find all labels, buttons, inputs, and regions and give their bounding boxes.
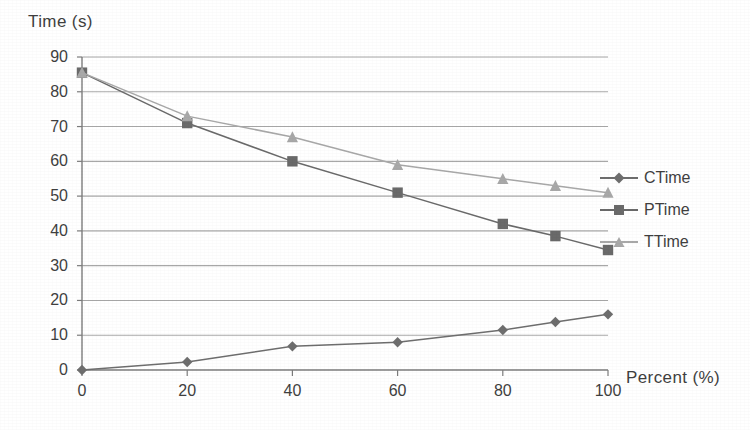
data-point-diamond xyxy=(392,337,402,347)
y-tick-label: 60 xyxy=(34,152,68,170)
x-tick-label: 60 xyxy=(389,382,407,400)
y-axis-title: Time (s) xyxy=(28,12,93,32)
x-tick-label: 40 xyxy=(283,382,301,400)
legend-label-ttime: TTime xyxy=(638,233,689,251)
y-tick-label: 40 xyxy=(34,222,68,240)
y-tick-label: 10 xyxy=(34,326,68,344)
data-point-diamond xyxy=(287,341,297,351)
data-point-diamond xyxy=(77,365,87,375)
x-tick-label: 80 xyxy=(494,382,512,400)
x-axis-title: Percent (%) xyxy=(626,368,720,388)
data-point-diamond xyxy=(182,357,192,367)
data-point-square xyxy=(550,231,560,241)
data-point-diamond xyxy=(498,325,508,335)
legend-label-ctime: CTime xyxy=(638,169,691,187)
y-tick-label: 90 xyxy=(34,48,68,66)
x-tick-label: 0 xyxy=(78,382,87,400)
y-tick-label: 50 xyxy=(34,187,68,205)
data-point-square xyxy=(392,187,402,197)
data-point-square xyxy=(498,219,508,229)
data-point-triangle xyxy=(182,110,193,121)
y-tick-label: 70 xyxy=(34,118,68,136)
y-tick-label: 20 xyxy=(34,291,68,309)
legend-item-ptime: PTime xyxy=(600,194,740,226)
legend-marker-triangle-icon xyxy=(600,235,638,249)
line-chart: Time (s) Percent (%) 0102030405060708090… xyxy=(0,0,750,430)
series-line-ttime xyxy=(82,73,608,193)
data-point-diamond xyxy=(603,309,613,319)
chart-legend: CTime PTime TTime xyxy=(600,162,740,258)
y-tick-label: 80 xyxy=(34,83,68,101)
data-point-square xyxy=(287,156,297,166)
x-tick-label: 20 xyxy=(178,382,196,400)
legend-item-ctime: CTime xyxy=(600,162,740,194)
y-tick-label: 0 xyxy=(34,361,68,379)
data-point-diamond xyxy=(550,317,560,327)
y-tick-label: 30 xyxy=(34,257,68,275)
legend-marker-square-icon xyxy=(600,203,638,217)
series-line-ctime xyxy=(82,314,608,370)
legend-item-ttime: TTime xyxy=(600,226,740,258)
x-tick-label: 100 xyxy=(595,382,622,400)
legend-label-ptime: PTime xyxy=(638,201,690,219)
legend-marker-diamond-icon xyxy=(600,171,638,185)
